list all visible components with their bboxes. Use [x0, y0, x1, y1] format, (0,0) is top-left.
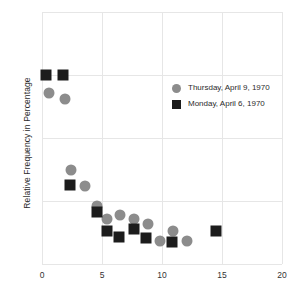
data-point-square [129, 224, 140, 235]
data-point-circle [115, 209, 126, 220]
gridline-vertical [162, 12, 163, 264]
data-point-circle [80, 180, 91, 191]
gridline-vertical [42, 12, 43, 264]
data-point-square [211, 226, 222, 237]
scatter-chart: Relative Frequency in Percentage 0510152… [0, 0, 298, 290]
x-tick-label: 5 [100, 270, 105, 280]
gridline-horizontal [42, 264, 282, 265]
data-point-circle [142, 219, 153, 230]
plot-area [42, 12, 282, 264]
x-tick-label: 20 [277, 270, 286, 280]
x-tick-label: 10 [157, 270, 166, 280]
data-point-circle [65, 165, 76, 176]
data-point-square [58, 70, 69, 81]
legend-square-marker-icon [172, 100, 181, 109]
data-point-square [41, 70, 52, 81]
chart-legend: Thursday, April 9, 1970 Monday, April 6,… [172, 80, 270, 112]
data-point-circle [101, 214, 112, 225]
data-point-square [113, 231, 124, 242]
data-point-square [166, 236, 177, 247]
data-point-square [101, 226, 112, 237]
legend-item-monday: Monday, April 6, 1970 [172, 96, 270, 112]
data-point-circle [154, 236, 165, 247]
data-point-circle [59, 93, 70, 104]
gridline-vertical [222, 12, 223, 264]
legend-circle-marker-icon [172, 84, 181, 93]
legend-label-thursday: Thursday, April 9, 1970 [188, 84, 270, 92]
data-point-square [141, 232, 152, 243]
legend-label-monday: Monday, April 6, 1970 [188, 100, 265, 108]
data-point-circle [129, 213, 140, 224]
data-point-circle [44, 87, 55, 98]
x-tick-label: 0 [40, 270, 45, 280]
y-axis-label: Relative Frequency in Percentage [22, 53, 32, 233]
legend-item-thursday: Thursday, April 9, 1970 [172, 80, 270, 96]
data-point-square [92, 207, 103, 218]
data-point-circle [167, 226, 178, 237]
data-point-circle [182, 236, 193, 247]
data-point-square [65, 180, 76, 191]
x-tick-label: 15 [217, 270, 226, 280]
gridline-vertical [282, 12, 283, 264]
